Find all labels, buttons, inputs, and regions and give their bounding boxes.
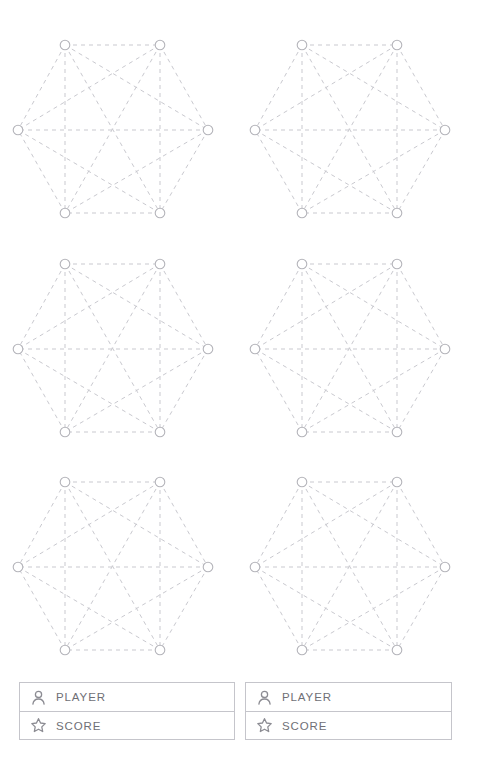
graph-node-top-left[interactable]	[60, 40, 70, 50]
graph-edge[interactable]	[255, 482, 397, 567]
graph-edge[interactable]	[302, 567, 445, 650]
graph-node-bottom-right[interactable]	[155, 645, 165, 655]
graph-node-left[interactable]	[250, 125, 260, 135]
graph-edge[interactable]	[18, 130, 160, 213]
graph-edge[interactable]	[255, 482, 302, 567]
graph-node-top-left[interactable]	[60, 259, 70, 269]
graph-edge[interactable]	[18, 264, 65, 349]
graph-edge[interactable]	[397, 567, 445, 650]
graph-node-right[interactable]	[440, 125, 450, 135]
graph-edge[interactable]	[160, 482, 208, 567]
score-card-right[interactable]: PLAYER SCORE	[245, 682, 452, 740]
graph-edge[interactable]	[302, 264, 397, 432]
graph-edge[interactable]	[255, 567, 302, 650]
hexagon-graph-hex-5[interactable]	[8, 462, 238, 662]
graph-node-right[interactable]	[203, 344, 213, 354]
graph-edge[interactable]	[65, 45, 160, 213]
hexagon-graph-hex-1[interactable]	[8, 25, 238, 225]
graph-node-bottom-right[interactable]	[392, 427, 402, 437]
graph-node-top-right[interactable]	[155, 477, 165, 487]
graph-edge[interactable]	[255, 349, 302, 432]
graph-edge[interactable]	[397, 264, 445, 349]
graph-node-left[interactable]	[13, 562, 23, 572]
graph-edge[interactable]	[255, 567, 397, 650]
graph-edge[interactable]	[255, 349, 397, 432]
graph-node-top-right[interactable]	[155, 40, 165, 50]
graph-edge[interactable]	[18, 482, 160, 567]
player-label: PLAYER	[56, 691, 106, 703]
graph-edge[interactable]	[302, 45, 397, 213]
graph-edge[interactable]	[65, 264, 160, 432]
graph-node-top-right[interactable]	[392, 259, 402, 269]
graph-edge[interactable]	[397, 45, 445, 130]
hexagon-graph-hex-3[interactable]	[8, 244, 238, 444]
graph-node-top-right[interactable]	[155, 259, 165, 269]
graph-edge[interactable]	[397, 482, 445, 567]
graph-edge[interactable]	[18, 130, 65, 213]
graph-edge[interactable]	[18, 567, 65, 650]
graph-edge[interactable]	[18, 349, 160, 432]
graph-node-right[interactable]	[440, 562, 450, 572]
graph-edge[interactable]	[255, 45, 302, 130]
graph-edge[interactable]	[65, 349, 208, 432]
graph-node-left[interactable]	[13, 344, 23, 354]
score-label: SCORE	[282, 720, 327, 732]
graph-node-top-left[interactable]	[297, 477, 307, 487]
hexagon-graph-hex-4[interactable]	[245, 244, 475, 444]
hexagon-graph-hex-6[interactable]	[245, 462, 475, 662]
graph-node-left[interactable]	[250, 344, 260, 354]
graph-edge[interactable]	[302, 482, 397, 650]
score-card-left[interactable]: PLAYER SCORE	[19, 682, 235, 740]
graph-node-left[interactable]	[250, 562, 260, 572]
graph-edge[interactable]	[302, 130, 445, 213]
graph-edge[interactable]	[160, 567, 208, 650]
graph-edge[interactable]	[255, 130, 302, 213]
graph-node-bottom-right[interactable]	[392, 645, 402, 655]
graph-node-top-left[interactable]	[297, 40, 307, 50]
graph-edge[interactable]	[65, 130, 208, 213]
graph-edge[interactable]	[255, 264, 397, 349]
graph-edge[interactable]	[18, 45, 65, 130]
person-icon	[30, 689, 47, 706]
graph-edge[interactable]	[18, 349, 65, 432]
graph-edge[interactable]	[65, 567, 208, 650]
graph-edge[interactable]	[255, 45, 397, 130]
graph-node-bottom-left[interactable]	[60, 427, 70, 437]
graph-node-top-left[interactable]	[297, 259, 307, 269]
graph-edge[interactable]	[160, 264, 208, 349]
graph-node-bottom-right[interactable]	[155, 208, 165, 218]
graph-node-right[interactable]	[203, 562, 213, 572]
graph-edge[interactable]	[65, 482, 160, 650]
graph-edge[interactable]	[18, 45, 160, 130]
graph-edge[interactable]	[18, 567, 160, 650]
hexagon-graph-board	[0, 0, 481, 670]
graph-node-right[interactable]	[440, 344, 450, 354]
score-row[interactable]: SCORE	[20, 711, 234, 739]
graph-edge[interactable]	[18, 482, 65, 567]
graph-node-top-left[interactable]	[60, 477, 70, 487]
graph-edge[interactable]	[160, 349, 208, 432]
graph-node-bottom-left[interactable]	[297, 645, 307, 655]
graph-node-bottom-left[interactable]	[60, 645, 70, 655]
graph-edge[interactable]	[18, 264, 160, 349]
graph-node-bottom-left[interactable]	[297, 208, 307, 218]
hexagon-graph-hex-2[interactable]	[245, 25, 475, 225]
graph-edge[interactable]	[397, 130, 445, 213]
graph-node-bottom-right[interactable]	[155, 427, 165, 437]
graph-node-bottom-right[interactable]	[392, 208, 402, 218]
graph-node-right[interactable]	[203, 125, 213, 135]
graph-edge[interactable]	[302, 349, 445, 432]
graph-edge[interactable]	[397, 349, 445, 432]
graph-node-top-right[interactable]	[392, 477, 402, 487]
graph-node-left[interactable]	[13, 125, 23, 135]
player-row[interactable]: PLAYER	[246, 683, 451, 711]
graph-node-top-right[interactable]	[392, 40, 402, 50]
player-row[interactable]: PLAYER	[20, 683, 234, 711]
graph-edge[interactable]	[255, 130, 397, 213]
graph-edge[interactable]	[160, 45, 208, 130]
graph-edge[interactable]	[160, 130, 208, 213]
graph-node-bottom-left[interactable]	[60, 208, 70, 218]
graph-node-bottom-left[interactable]	[297, 427, 307, 437]
score-row[interactable]: SCORE	[246, 711, 451, 739]
graph-edge[interactable]	[255, 264, 302, 349]
